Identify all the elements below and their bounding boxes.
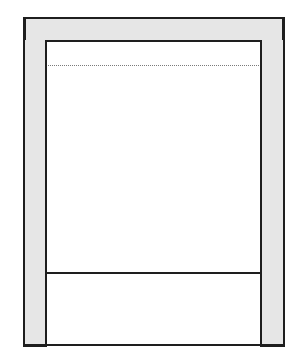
upper-panel [46,40,261,274]
lower-panel [46,274,261,345]
top-rail [23,17,285,42]
bottom-edge-line [23,344,285,346]
right-stile [260,40,285,347]
dotted-guide-line [48,65,259,66]
left-stile [23,40,47,347]
panel-divider-line [46,272,261,274]
frame-diagram [0,0,302,361]
